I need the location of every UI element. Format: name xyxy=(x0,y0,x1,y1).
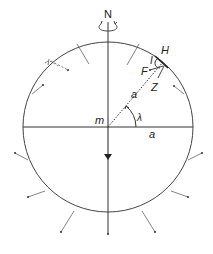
field-label: F xyxy=(141,65,149,77)
latitude-arc xyxy=(126,106,136,127)
north-label: N xyxy=(104,8,112,20)
zenith-label: Z xyxy=(150,81,159,93)
radius-slanted-label: a xyxy=(131,88,137,100)
earth-diagram: N m λ a a Z F I H xyxy=(0,0,213,254)
inclination-label: I xyxy=(150,55,153,66)
center-label: m xyxy=(95,114,104,126)
latitude-label: λ xyxy=(136,112,142,123)
horizon-label: H xyxy=(161,44,169,56)
radius-horizontal-label: a xyxy=(149,128,155,140)
axis-end-dot xyxy=(107,233,109,235)
